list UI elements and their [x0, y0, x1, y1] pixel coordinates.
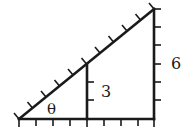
triangle-diagram: θ 3 6: [0, 0, 185, 136]
large-height-label: 6: [171, 54, 181, 73]
angle-theta-label: θ: [47, 100, 56, 118]
hypotenuse-ticks: [14, 3, 154, 119]
small-height-label: 3: [101, 82, 111, 101]
